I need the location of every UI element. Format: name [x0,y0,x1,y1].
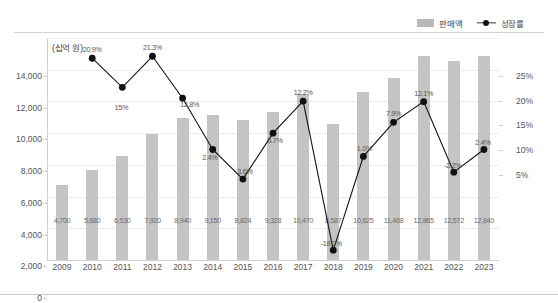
x-axis-tick-label-2013: 2013 [173,262,192,272]
y-axis-right-tick [499,76,503,77]
growth-value-label: 12.8% [180,100,199,109]
growth-point-2011[interactable] [119,84,126,91]
growth-point-2015[interactable] [239,176,246,183]
growth-value-label: 12.1% [414,89,433,98]
y-axis-right-tick-label: 25% [516,71,550,81]
y-axis-right-tick [499,125,503,126]
x-axis-tick-label-2018: 2018 [324,262,343,272]
growth-value-label: 2.4% [475,138,490,147]
x-axis-tick-label-2023: 2023 [474,262,493,272]
y-axis-left-tick-label: 2,000 [0,261,42,271]
growth-value-label: 7.9% [386,109,401,118]
growth-point-2017[interactable] [300,98,307,105]
growth-value-label: 1.0% [357,144,372,153]
y-axis-right-tick-label: 5% [516,170,550,180]
x-axis-tick-label-2014: 2014 [203,262,222,272]
growth-value-label: 15% [115,103,129,112]
x-axis-tick-label-2022: 2022 [444,262,463,272]
plot-area: 4,7005,6806,5307,9208,9409,1508,8249,328… [47,38,499,260]
growth-value-label: 20.9% [83,45,102,54]
growth-point-2014[interactable] [209,146,216,153]
y-axis-left-tick-label: 14,000 [0,71,42,81]
growth-value-label: 21.3% [143,43,162,52]
growth-value-label: 12.2% [294,88,313,97]
y-axis-right-tick-label: 10% [516,145,550,155]
y-axis-right-tick-label: 20% [516,96,550,106]
x-axis-tick-label-2021: 2021 [414,262,433,272]
growth-value-label: -3.6% [235,167,252,176]
x-axis-tick-label-2012: 2012 [143,262,162,272]
x-axis-tick-label-2020: 2020 [384,262,403,272]
growth-point-2012[interactable] [149,53,156,60]
legend-item-sales[interactable]: 판매액 [417,17,462,29]
y-axis-right-tick-label: 15% [516,120,550,130]
legend-item-growth[interactable]: 성장률 [477,17,524,29]
y-axis-left-tick-label: 6,000 [0,198,42,208]
growth-point-2019[interactable] [360,153,367,160]
growth-line [47,38,499,260]
x-axis-tick-label-2016: 2016 [264,262,283,272]
x-axis-tick-label-2015: 2015 [233,262,252,272]
growth-value-label: -18.0% [321,239,342,248]
y-axis-left-tick-label: 12,000 [0,103,42,113]
growth-value-label: 2.4% [202,153,217,162]
gridline [47,260,499,261]
x-axis-tick-label-2009: 2009 [53,262,72,272]
legend-line-marker-icon [477,19,496,27]
y-axis-left-tick-label: 10,000 [0,134,42,144]
legend-label-growth: 성장률 [501,17,524,29]
y-axis-left-tick-label: 8,000 [0,166,42,176]
chart-bottom-border [0,294,558,295]
y-axis-left-tick [43,298,47,299]
legend-bar-swatch-icon [417,19,434,27]
x-axis-tick-label-2019: 2019 [354,262,373,272]
chart-legend: 판매액 성장률 [0,14,558,32]
y-axis-right-tick [499,150,503,151]
legend-label-sales: 판매액 [439,17,462,29]
x-axis: 2009201020112012201320142015201620172018… [47,262,499,282]
growth-value-label: 5.7% [267,136,282,145]
x-axis-tick-label-2011: 2011 [113,262,131,272]
legend-divider [14,32,544,33]
growth-point-2021[interactable] [420,98,427,105]
growth-line-path [92,56,484,250]
y-axis-right-tick [499,175,503,176]
growth-point-2020[interactable] [390,119,397,126]
y-axis-left-tick-label: 4,000 [0,230,42,240]
growth-point-2010[interactable] [89,55,96,62]
growth-value-label: -2.2% [444,161,461,170]
y-axis-right-tick [499,101,503,102]
x-axis-tick-label-2017: 2017 [294,262,313,272]
x-axis-tick-label-2010: 2010 [83,262,102,272]
